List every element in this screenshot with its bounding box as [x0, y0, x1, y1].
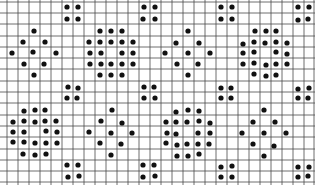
dot — [129, 130, 134, 135]
dot — [75, 162, 80, 167]
dot — [207, 50, 212, 55]
dot — [21, 118, 26, 123]
dot — [195, 61, 200, 66]
dot — [97, 140, 102, 145]
dot — [174, 61, 179, 66]
dot — [151, 162, 156, 167]
dot — [163, 119, 168, 124]
dot — [185, 72, 190, 77]
dot — [184, 119, 189, 124]
dot — [229, 163, 234, 168]
dot — [273, 28, 278, 33]
dot — [98, 50, 103, 55]
dot — [141, 95, 146, 100]
dot — [130, 39, 135, 44]
dot — [98, 118, 103, 123]
dot — [119, 50, 124, 55]
dot — [263, 62, 268, 67]
dot — [10, 119, 15, 124]
dot — [218, 164, 223, 169]
dot — [97, 39, 102, 44]
dot — [251, 49, 256, 54]
dot — [273, 72, 278, 77]
dot — [240, 61, 245, 66]
dot — [164, 130, 169, 135]
dot — [218, 16, 223, 21]
dot — [10, 129, 15, 134]
dot — [20, 151, 25, 156]
dot — [261, 107, 266, 112]
dot — [283, 130, 288, 135]
dot — [86, 39, 91, 44]
dot — [240, 41, 245, 46]
dot — [108, 28, 113, 33]
dot — [97, 28, 102, 33]
dot — [306, 164, 311, 169]
dot — [207, 120, 212, 125]
dot — [162, 50, 167, 55]
dot — [108, 72, 113, 77]
dot — [273, 61, 278, 66]
dot — [119, 39, 124, 44]
dot — [272, 119, 277, 124]
dot — [21, 139, 26, 144]
dot — [229, 16, 234, 21]
dot — [173, 40, 178, 45]
dot — [271, 143, 276, 148]
dot — [32, 107, 37, 112]
dot — [108, 152, 113, 157]
dot — [218, 95, 223, 100]
dot — [20, 39, 25, 44]
dot — [305, 95, 310, 100]
dot — [41, 61, 46, 66]
dot — [87, 61, 92, 66]
dot — [263, 28, 268, 33]
dot — [295, 4, 300, 9]
dot — [42, 107, 47, 112]
dot — [196, 151, 201, 156]
dot — [64, 16, 69, 21]
dot — [141, 4, 146, 9]
dot — [130, 61, 135, 66]
dot — [252, 28, 257, 33]
dot — [284, 40, 289, 45]
dot — [196, 40, 201, 45]
dot — [64, 95, 69, 100]
dot — [21, 108, 26, 113]
dot — [65, 174, 70, 179]
dot — [108, 39, 113, 44]
dot — [21, 129, 26, 134]
dot — [295, 17, 300, 22]
dot — [43, 140, 48, 145]
dot — [284, 61, 289, 66]
dot — [75, 4, 80, 9]
dot — [10, 139, 15, 144]
dot — [152, 4, 157, 9]
dot — [239, 130, 244, 135]
dot — [87, 50, 92, 55]
dot — [218, 4, 223, 9]
dot — [195, 130, 200, 135]
dot — [295, 86, 300, 91]
dot — [229, 174, 234, 179]
dot — [263, 73, 268, 78]
dot — [54, 129, 59, 134]
dot — [140, 162, 145, 167]
dot — [152, 173, 157, 178]
dot — [21, 61, 26, 66]
dot — [64, 162, 69, 167]
dot — [53, 118, 58, 123]
dot — [42, 118, 47, 123]
dot — [31, 72, 36, 77]
dot — [140, 16, 145, 21]
dot — [185, 50, 190, 55]
dot — [119, 120, 124, 125]
dot — [163, 140, 168, 145]
dot — [295, 174, 300, 179]
dot — [65, 84, 70, 89]
dot — [43, 128, 48, 133]
dot — [42, 39, 47, 44]
dot — [207, 130, 212, 135]
dot-grid-diagram — [0, 0, 315, 185]
dot — [218, 85, 223, 90]
